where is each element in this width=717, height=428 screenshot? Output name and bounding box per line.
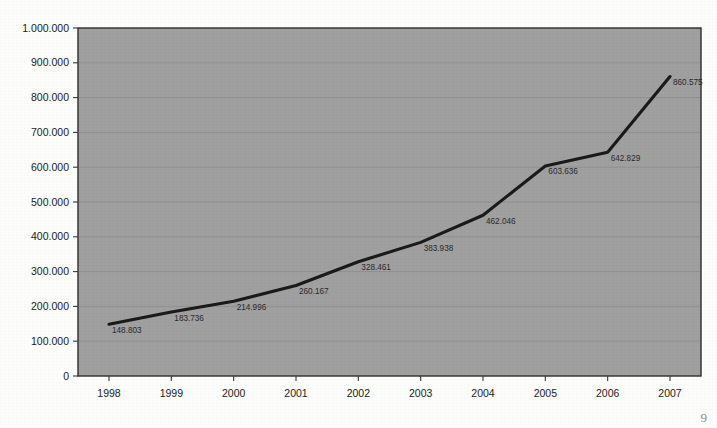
- x-axis-tick-label: 2003: [409, 387, 433, 399]
- x-axis-tick-label: 2006: [596, 387, 620, 399]
- x-axis-tick-label: 2007: [658, 387, 682, 399]
- chart-canvas: 0100.000200.000300.000400.000500.000600.…: [0, 0, 717, 428]
- y-axis-tick-label: 100.000: [31, 335, 69, 347]
- y-axis: 0100.000200.000300.000400.000500.000600.…: [22, 22, 78, 382]
- x-axis-tick-label: 2005: [534, 387, 558, 399]
- y-axis-tick-label: 400.000: [31, 230, 69, 242]
- data-point-label: 214.996: [237, 303, 267, 312]
- x-axis-tick-label: 1999: [160, 387, 184, 399]
- y-axis-tick-label: 200.000: [31, 300, 69, 312]
- y-axis-tick-label: 500.000: [31, 196, 69, 208]
- y-axis-tick-label: 600.000: [31, 161, 69, 173]
- y-axis-tick-label: 700.000: [31, 126, 69, 138]
- data-point-label: 642.829: [611, 154, 641, 163]
- data-point-label: 462.046: [486, 217, 516, 226]
- data-point-label: 148.803: [112, 326, 142, 335]
- data-point-label: 328.461: [361, 263, 391, 272]
- data-point-label: 383.938: [424, 244, 454, 253]
- x-axis-tick-label: 2001: [284, 387, 308, 399]
- y-axis-tick-label: 900.000: [31, 56, 69, 68]
- y-axis-tick-label: 0: [63, 370, 69, 382]
- x-axis-tick-label: 2002: [347, 387, 371, 399]
- x-axis: 1998199920002001200220032004200520062007: [97, 376, 682, 399]
- page-corner-mark: 9: [701, 410, 708, 426]
- x-axis-tick-label: 2000: [222, 387, 246, 399]
- data-point-label: 860.575: [673, 78, 703, 87]
- data-point-label: 183.736: [174, 314, 204, 323]
- x-axis-tick-label: 1998: [97, 387, 121, 399]
- data-point-label: 603.636: [548, 167, 578, 176]
- data-point-label: 260.167: [299, 287, 329, 296]
- y-axis-tick-label: 800.000: [31, 91, 69, 103]
- x-axis-tick-label: 2004: [471, 387, 495, 399]
- y-axis-tick-label: 1.000.000: [22, 22, 69, 34]
- line-chart-figure: 0100.000200.000300.000400.000500.000600.…: [0, 0, 717, 428]
- y-axis-tick-label: 300.000: [31, 265, 69, 277]
